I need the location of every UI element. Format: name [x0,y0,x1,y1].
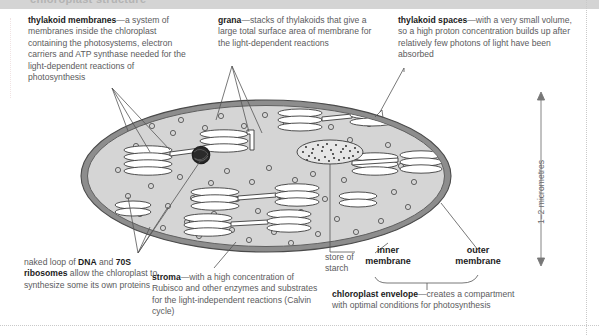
note-thylakoid-spaces: thylakoid spaces—with a very small volum… [398,15,578,61]
note-term-dna: DNA [78,257,97,267]
note-term-chloroplast-envelope: chloroplast envelope [332,289,418,299]
label-outer-membrane-line2: membrane [438,256,518,267]
note-body-thylakoid-membranes: —a system of membranes inside the chloro… [28,15,186,82]
label-inner-membrane-line2: membrane [350,256,426,267]
note-term-thylakoid-spaces: thylakoid spaces [398,15,467,25]
scale-arrow-up [537,92,544,100]
note-thylakoid-membranes: thylakoid membranes—a system of membrane… [28,15,193,83]
note-chloroplast-envelope: chloroplast envelope—creates a compartme… [332,289,517,312]
note-stroma: stroma—with a high concentration of Rubi… [152,272,324,318]
scale-caption: 1–2 micrometres [536,160,546,224]
note-term-grana: grana [218,15,241,25]
note-grana: grana—stacks of thylakoids that give a l… [218,15,383,49]
diagram-page: chloroplast structure [0,0,599,335]
note-body-grana: —stacks of thylakoids that give a large … [218,15,371,48]
label-outer-membrane-line1: outer [438,245,518,256]
note-pre-dna: naked loop of [24,257,78,267]
note-term-thylakoid-membranes: thylakoid membranes [28,15,116,25]
label-outer-membrane: outer membrane [438,245,518,267]
scale-arrow-down [537,258,544,266]
note-term-stroma: stroma [152,272,181,282]
label-inner-membrane-line1: inner [350,245,426,256]
note-mid-dna: and [97,257,116,267]
label-inner-membrane: inner membrane [350,245,426,267]
